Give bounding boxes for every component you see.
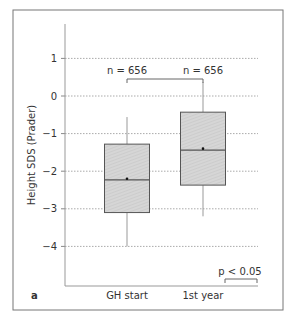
y-tick-label: 1	[51, 53, 57, 64]
gridlines	[65, 58, 258, 246]
y-tick-label: −4	[42, 241, 57, 252]
n-label-1st-year: n = 656	[183, 65, 223, 76]
mean-marker	[202, 147, 205, 150]
y-tick-label: −2	[42, 166, 57, 177]
box-1st-year	[181, 82, 226, 216]
panel-label: a	[31, 290, 38, 301]
box-plot-chart: 10−1−2−3−4 Height SDS (Prader) n = 656 n…	[0, 0, 295, 321]
significance-label: p < 0.05	[218, 266, 261, 277]
n-label-gh-start: n = 656	[107, 65, 147, 76]
y-tick-label: 0	[51, 91, 57, 102]
x-label-gh-start: GH start	[106, 290, 148, 301]
x-label-1st-year: 1st year	[183, 290, 225, 301]
comparison-bracket	[127, 79, 203, 83]
significance-bracket	[225, 279, 257, 283]
boxes	[105, 82, 226, 246]
y-axis: 10−1−2−3−4	[42, 53, 65, 252]
mean-marker	[126, 177, 129, 180]
y-axis-label: Height SDS (Prader)	[26, 105, 37, 205]
box-gh-start	[105, 117, 150, 246]
y-tick-label: −3	[42, 203, 57, 214]
y-tick-label: −1	[42, 128, 57, 139]
